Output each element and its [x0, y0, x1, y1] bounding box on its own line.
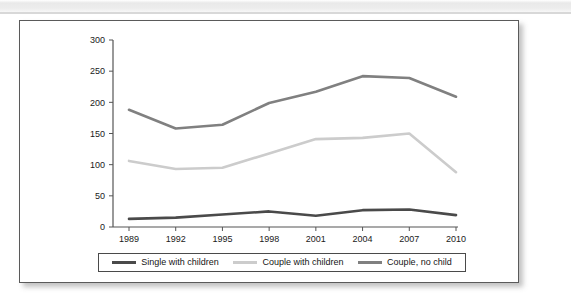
page-root: 050100150200250300 198919921995199820012…	[0, 0, 571, 302]
series-line-couple-with-children	[129, 134, 456, 173]
scan-artifact-band	[0, 0, 571, 12]
x-axis-ticks	[129, 227, 456, 231]
y-tick-label: 300	[90, 35, 105, 45]
line-chart-svg: 050100150200250300 198919921995199820012…	[20, 21, 520, 284]
y-tick-label: 0	[100, 222, 105, 232]
legend-label-couple-no-child: Couple, no child	[387, 258, 452, 267]
x-tick-label: 1998	[259, 234, 279, 244]
scan-artifact-rule	[0, 12, 571, 14]
x-tick-label: 1995	[212, 234, 232, 244]
series-line-single-with-children	[129, 210, 456, 219]
y-axis-tick-labels: 050100150200250300	[90, 35, 105, 232]
legend-swatch-couple-no-child	[358, 261, 382, 264]
legend-item-couple-with-children: Couple with children	[233, 258, 343, 267]
y-tick-label: 200	[90, 98, 105, 108]
legend-label-couple-with-children: Couple with children	[262, 258, 343, 267]
x-tick-label: 2001	[306, 234, 326, 244]
legend-item-single-with-children: Single with children	[112, 258, 219, 267]
legend-item-couple-no-child: Couple, no child	[358, 258, 452, 267]
chart-legend: Single with children Couple with childre…	[98, 253, 466, 272]
legend-label-single-with-children: Single with children	[141, 258, 219, 267]
chart-series-group	[129, 76, 456, 219]
legend-swatch-single-with-children	[112, 261, 136, 264]
x-axis-tick-labels: 19891992199519982001200420072010	[119, 234, 466, 244]
series-line-couple-no-child	[129, 76, 456, 128]
y-tick-label: 50	[95, 191, 105, 201]
x-tick-label: 1992	[166, 234, 186, 244]
x-tick-label: 2004	[353, 234, 373, 244]
x-tick-label: 2007	[399, 234, 419, 244]
chart-plot-area: 050100150200250300 198919921995199820012…	[20, 21, 520, 284]
chart-card: 050100150200250300 198919921995199820012…	[19, 20, 519, 283]
x-tick-label: 1989	[119, 234, 139, 244]
y-tick-label: 100	[90, 160, 105, 170]
y-tick-label: 250	[90, 66, 105, 76]
legend-swatch-couple-with-children	[233, 261, 257, 264]
y-tick-label: 150	[90, 129, 105, 139]
x-tick-label: 2010	[446, 234, 466, 244]
